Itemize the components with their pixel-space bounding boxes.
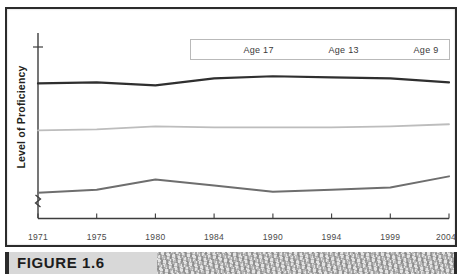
- legend-item-age-13[interactable]: Age 13: [286, 45, 358, 55]
- caption-left-bar: [5, 252, 9, 274]
- legend-label-age-17: Age 17: [243, 45, 273, 55]
- y-axis-break-icon: [36, 195, 41, 207]
- series-layer: [38, 76, 449, 192]
- legend-label-age-9: Age 9: [414, 45, 439, 55]
- series-line-age-13: [38, 124, 449, 130]
- caption-right-bar: [454, 252, 457, 274]
- legend-label-age-13: Age 13: [328, 45, 358, 55]
- x-tick-label-1990: 1990: [263, 232, 283, 242]
- figure-caption-label: FIGURE 1.6: [17, 254, 105, 271]
- figure-page: Level of Proficiency Age 17 Age 13 Age 9: [0, 0, 464, 275]
- series-line-age-17: [38, 76, 449, 85]
- x-tick-label-1971: 1971: [28, 232, 48, 242]
- x-tick-label-1975: 1975: [87, 232, 107, 242]
- line-chart: Level of Proficiency Age 17 Age 13 Age 9: [5, 7, 457, 247]
- x-axis-ticks: [38, 214, 449, 219]
- chart-legend: Age 17 Age 13 Age 9: [190, 39, 450, 60]
- x-tick-label-1984: 1984: [204, 232, 224, 242]
- x-tick-label-1980: 1980: [145, 232, 165, 242]
- x-tick-label-1994: 1994: [322, 232, 342, 242]
- x-tick-label-1999: 1999: [380, 232, 400, 242]
- x-tick-label-2004: 2004: [436, 232, 456, 242]
- figure-caption-band: FIGURE 1.6: [5, 252, 457, 274]
- legend-item-age-17[interactable]: Age 17: [201, 45, 273, 55]
- legend-item-age-9[interactable]: Age 9: [372, 45, 439, 55]
- series-line-age-9: [38, 176, 449, 192]
- y-axis-title: Level of Proficiency: [15, 57, 27, 177]
